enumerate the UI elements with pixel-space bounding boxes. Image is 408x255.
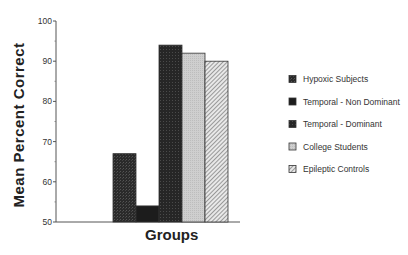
- bar-temporal-dominant: [159, 45, 182, 222]
- legend-swatch: [289, 143, 296, 150]
- y-tick-label: 60: [43, 177, 53, 187]
- y-tick-label: 50: [43, 217, 53, 227]
- y-tick-label: 90: [43, 56, 53, 66]
- y-axis-title: Mean Percent Correct: [10, 42, 27, 207]
- y-axis-label: Mean Percent Correct: [8, 30, 28, 220]
- legend-label: Temporal - Dominant: [303, 119, 383, 129]
- legend-label: Hypoxic Subjects: [303, 74, 368, 84]
- legend-swatch: [289, 76, 296, 83]
- legend-swatch: [289, 98, 296, 105]
- x-axis-label: Groups: [145, 226, 198, 243]
- legend-label: College Students: [303, 142, 368, 152]
- y-tick-label: 100: [38, 16, 52, 26]
- legend-swatch: [289, 166, 296, 173]
- legend-swatch: [289, 121, 296, 128]
- legend-label: Temporal - Non Dominant: [303, 97, 400, 107]
- bar-chart: 5060708090100 Hypoxic SubjectsTemporal -…: [0, 0, 408, 255]
- bar-temporal-non-dominant: [136, 206, 159, 222]
- bar-hypoxic-subjects: [113, 154, 136, 222]
- bar-epileptic-controls: [205, 61, 228, 222]
- chart-plot: 5060708090100 Hypoxic SubjectsTemporal -…: [0, 0, 408, 255]
- y-tick-label: 70: [43, 137, 53, 147]
- y-tick-label: 80: [43, 96, 53, 106]
- legend: Hypoxic SubjectsTemporal - Non DominantT…: [289, 74, 400, 174]
- bar-college-students: [182, 53, 205, 222]
- bars: [113, 45, 228, 222]
- legend-label: Epileptic Controls: [303, 164, 369, 174]
